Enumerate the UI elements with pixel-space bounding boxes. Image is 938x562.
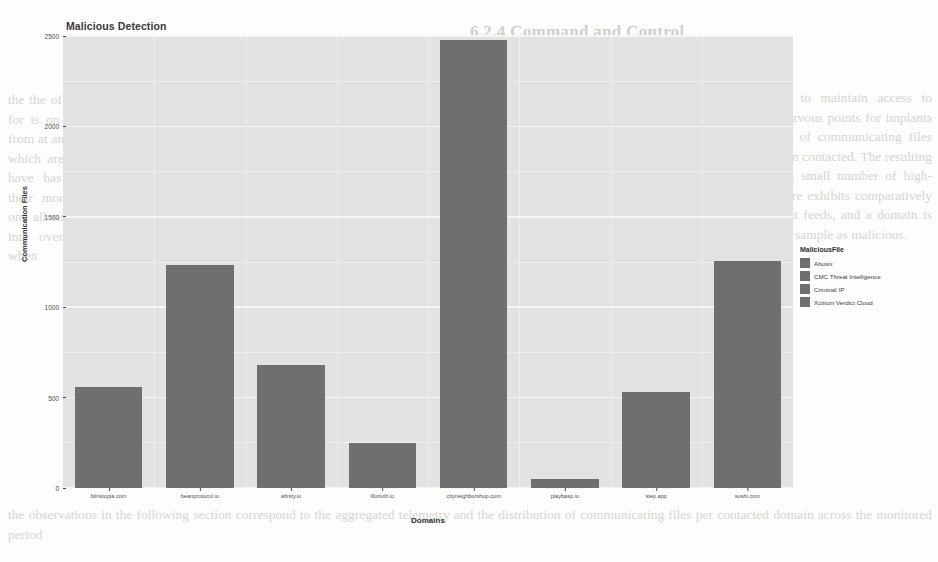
bar[interactable] bbox=[714, 261, 782, 488]
y-axis-tick-label: 0 bbox=[55, 485, 63, 492]
y-axis-tick-label: 2000 bbox=[45, 123, 63, 130]
y-axis-tick-label: 2500 bbox=[45, 33, 63, 40]
x-axis-tick-label: sushi.com bbox=[735, 488, 760, 499]
gridline-vertical-minor bbox=[428, 36, 429, 488]
gridline-vertical-minor bbox=[246, 36, 247, 488]
legend-item-label: Criminal IP bbox=[814, 286, 844, 293]
y-axis-tick-label: 1000 bbox=[45, 304, 63, 311]
bar-chart: Malicious Detection Communication Files … bbox=[0, 0, 938, 562]
chart-title: Malicious Detection bbox=[66, 20, 167, 32]
legend-item[interactable]: CMC Threat Intelligence bbox=[800, 270, 881, 282]
x-axis-tick-label: blinktopia.com bbox=[91, 488, 127, 499]
legend-entries: AbusixCMC Threat IntelligenceCriminal IP… bbox=[800, 257, 881, 308]
legend-item-label: Xcitium Verdict Cloud bbox=[814, 299, 873, 306]
x-axis-tick-label: step.app bbox=[645, 488, 666, 499]
gridline-vertical-minor bbox=[611, 36, 612, 488]
legend-swatch-icon bbox=[800, 258, 810, 268]
legend-item-label: CMC Threat Intelligence bbox=[814, 273, 881, 280]
x-axis-tick-label: afinity.io bbox=[281, 488, 301, 499]
gridline-vertical-minor bbox=[702, 36, 703, 488]
y-axis-tick-label: 500 bbox=[48, 394, 63, 401]
bar[interactable] bbox=[257, 365, 325, 488]
legend-item[interactable]: Xcitium Verdict Cloud bbox=[800, 296, 881, 308]
legend-title: MaliciousFile bbox=[800, 246, 881, 253]
legend-item[interactable]: Abusix bbox=[800, 257, 881, 269]
legend-swatch-icon bbox=[800, 284, 810, 294]
legend-item[interactable]: Criminal IP bbox=[800, 283, 881, 295]
x-axis-tick-label: playbasp.io bbox=[551, 488, 579, 499]
legend-swatch-icon bbox=[800, 297, 810, 307]
bar[interactable] bbox=[166, 265, 234, 488]
bar[interactable] bbox=[440, 40, 508, 488]
x-axis-tick-label: illuriuth.io bbox=[371, 488, 395, 499]
x-axis-tick-label: cityneighborshop.com bbox=[446, 488, 500, 499]
bar[interactable] bbox=[349, 443, 417, 488]
legend-item-label: Abusix bbox=[814, 260, 833, 267]
gridline-vertical-minor bbox=[337, 36, 338, 488]
plot-panel: 05001000150020002500blinktopia.combeanpr… bbox=[63, 36, 793, 488]
y-axis-title: Communication Files bbox=[20, 186, 29, 262]
x-axis-title: Domains bbox=[63, 516, 793, 525]
bar[interactable] bbox=[531, 479, 599, 488]
screenshot-page: 6.2.4 Command and Control the the of to … bbox=[0, 0, 938, 562]
gridline-vertical-minor bbox=[519, 36, 520, 488]
y-axis-tick-label: 1500 bbox=[45, 213, 63, 220]
gridline-vertical-minor bbox=[154, 36, 155, 488]
x-axis-tick-label: beanprotocol.io bbox=[181, 488, 219, 499]
bar[interactable] bbox=[622, 392, 690, 488]
bar[interactable] bbox=[75, 387, 143, 488]
legend-swatch-icon bbox=[800, 271, 810, 281]
legend: MaliciousFile AbusixCMC Threat Intellige… bbox=[800, 246, 881, 309]
